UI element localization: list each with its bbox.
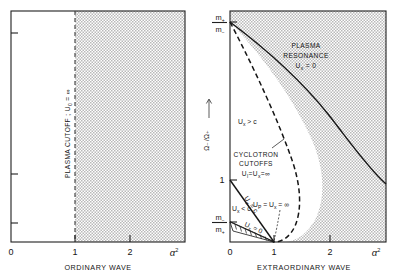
cyclotron-leader-line [272, 139, 284, 148]
cyclotron-cutoffs-annotation: CYCLOTRON CUTOFFS Ul=Ux=∞ [234, 139, 285, 179]
svg-text:m−: m− [215, 213, 224, 223]
svg-text:Ul=Ux=∞: Ul=Ux=∞ [242, 170, 270, 179]
plasma-wave-figure: 0 1 2 α2 ORDINARY WAVE PLASMA CUTOFF ; U… [0, 0, 401, 278]
svg-text:UP = Ux = ∞: UP = Ux = ∞ [253, 201, 289, 210]
up-leader-line [274, 210, 280, 241]
ordinary-wave-plot: 0 1 2 α2 ORDINARY WAVE PLASMA CUTOFF ; U… [0, 0, 200, 278]
extraordinary-x-axis-symbol: α2 [372, 247, 381, 258]
ux-less-c-annotation: Ux < c [232, 205, 251, 214]
ordinary-xtick-label-1: 1 [72, 247, 77, 257]
svg-text:CUTOFFS: CUTOFFS [239, 160, 273, 167]
panel-extraordinary-wave: 0 1 2 α2 EXTRAORDINARY WAVE m+ m− 1 [200, 0, 401, 278]
y-axis-label-text: Ω₋/Ω₊ [203, 129, 210, 151]
plasma-cutoff-text: PLASMA CUTOFF ; U [64, 106, 71, 178]
ordinary-wave-title: ORDINARY WAVE [64, 263, 131, 272]
ytick-label-m-plus-over-m-minus: m+ m− [212, 13, 227, 35]
extraordinary-xtick-label-2: 2 [327, 247, 332, 257]
ux-greater-c-annotation: Ux > c [238, 118, 257, 127]
ordinary-xtick-label-0: 0 [8, 247, 13, 257]
extraordinary-xtick-label-1: 1 [271, 247, 276, 257]
svg-text:CYCLOTRON: CYCLOTRON [234, 151, 279, 158]
ytick-label-m-minus-over-m-plus: m− m+ [212, 213, 227, 235]
plasma-cutoff-annotation: PLASMA CUTOFF ; U0 = ∞ [64, 89, 73, 178]
svg-text:m+: m+ [215, 13, 224, 23]
ordinary-x-axis-symbol: α2 [170, 247, 179, 258]
ordinary-xtick-label-2: 2 [127, 247, 132, 257]
svg-text:RESONANCE: RESONANCE [283, 52, 329, 59]
svg-text:m−: m− [215, 25, 224, 35]
extraordinary-wave-plot: 0 1 2 α2 EXTRAORDINARY WAVE m+ m− 1 [200, 0, 401, 278]
y-axis-arrow-icon [206, 99, 211, 118]
ordinary-stop-band-region [75, 11, 185, 242]
svg-text:m+: m+ [215, 225, 224, 235]
plasma-cutoff-tail: = ∞ [64, 89, 71, 103]
svg-text:PLASMA: PLASMA [291, 42, 320, 49]
extraordinary-wave-title: EXTRAORDINARY WAVE [257, 263, 351, 272]
panel-ordinary-wave: 0 1 2 α2 ORDINARY WAVE PLASMA CUTOFF ; U… [0, 0, 200, 278]
svg-text:PLASMA CUTOFF ; U0 = ∞: PLASMA CUTOFF ; U0 = ∞ [64, 89, 73, 178]
extraordinary-xtick-label-0: 0 [227, 247, 232, 257]
ytick-label-unity: 1 [219, 175, 224, 185]
extraordinary-y-axis-title: Ω₋/Ω₊ [203, 129, 210, 151]
